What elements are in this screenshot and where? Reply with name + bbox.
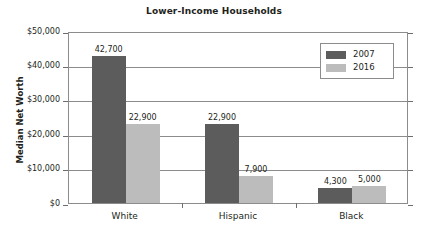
bar-value-label: 22,900	[199, 113, 245, 122]
bar-hispanic-2007[interactable]	[205, 124, 239, 203]
y-axis-tick-label: $20,000	[0, 130, 60, 139]
y-axis-tick	[63, 33, 68, 34]
y-axis-tick	[408, 33, 413, 34]
legend-label-2007: 2007	[353, 50, 375, 59]
x-axis-tick	[182, 203, 183, 208]
legend-swatch-2007	[326, 51, 346, 59]
bar-group: 22,9007,900	[205, 33, 273, 203]
y-axis-tick	[408, 67, 413, 68]
y-axis-tick-label: $30,000	[0, 95, 60, 104]
y-axis-tick	[63, 101, 68, 102]
y-axis-tick	[63, 136, 68, 137]
y-axis-tick-label: $50,000	[0, 27, 60, 36]
chart-legend: 20072016	[320, 43, 394, 79]
chart-title: Lower-Income Households	[0, 6, 428, 16]
x-axis-tick	[296, 203, 297, 208]
legend-label-2016: 2016	[353, 63, 375, 72]
y-axis-tick	[408, 101, 413, 102]
y-axis-tick	[63, 67, 68, 68]
x-axis-label-hispanic: Hispanic	[183, 211, 293, 221]
bar-value-label: 42,700	[86, 45, 132, 54]
bar-hispanic-2016[interactable]	[239, 176, 273, 203]
bar-black-2016[interactable]	[352, 186, 386, 203]
y-axis-tick-label: $10,000	[0, 164, 60, 173]
y-axis-tick	[63, 170, 68, 171]
x-axis-label-black: Black	[296, 211, 406, 221]
legend-item-2007[interactable]: 2007	[326, 48, 388, 61]
bar-black-2007[interactable]	[318, 188, 352, 203]
legend-swatch-2016	[326, 64, 346, 72]
x-axis-label-white: White	[70, 211, 180, 221]
bar-value-label: 5,000	[346, 175, 392, 184]
chart-container: Lower-Income Households Median Net Worth…	[0, 0, 428, 241]
bar-white-2016[interactable]	[126, 124, 160, 203]
bar-group: 42,70022,900	[92, 33, 160, 203]
y-axis-tick	[408, 205, 413, 206]
bar-white-2007[interactable]	[92, 56, 126, 203]
y-axis-tick	[408, 136, 413, 137]
y-axis-tick	[408, 170, 413, 171]
y-axis-tick-label: $40,000	[0, 61, 60, 70]
legend-item-2016[interactable]: 2016	[326, 61, 388, 74]
y-axis-tick	[63, 205, 68, 206]
bar-value-label: 7,900	[233, 165, 279, 174]
bar-value-label: 22,900	[120, 113, 166, 122]
y-axis-tick-label: $0	[0, 199, 60, 208]
